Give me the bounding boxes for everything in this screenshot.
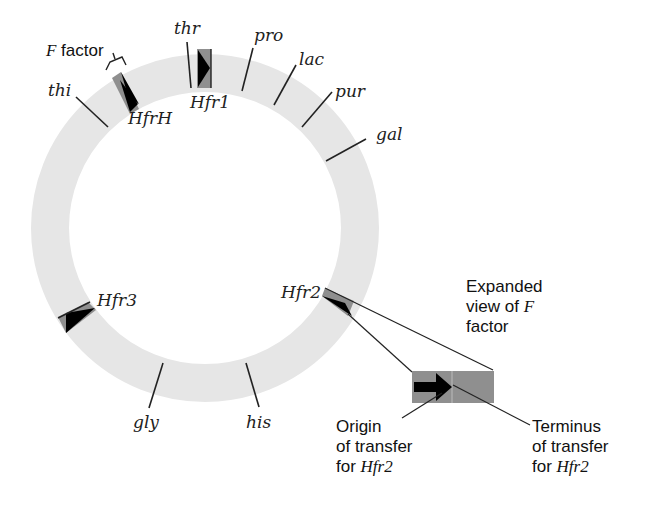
hfr-label-hfr3: Hfr3 bbox=[96, 290, 137, 310]
chromosome-ring bbox=[50, 73, 360, 383]
gene-label-thr: thr bbox=[174, 18, 201, 38]
hfr1-insert bbox=[197, 49, 211, 88]
hfr-label-hfr2: Hfr2 bbox=[280, 282, 321, 302]
f-factor-label: F factor bbox=[45, 41, 104, 60]
gene-label-pro: pro bbox=[254, 25, 283, 45]
terminus-of-transfer-label: Terminus of transfer for Hfr2 bbox=[532, 417, 613, 476]
gene-label-his: his bbox=[246, 412, 271, 432]
gene-label-gal: gal bbox=[376, 124, 402, 144]
expanded-f-factor-box bbox=[402, 371, 530, 425]
gene-label-lac: lac bbox=[299, 49, 325, 69]
expanded-view-label: Expanded view of F factor bbox=[466, 277, 547, 336]
gene-label-thi: thi bbox=[48, 80, 71, 100]
gene-label-gly: gly bbox=[133, 412, 159, 432]
origin-of-transfer-label: Origin of transfer for Hfr2 bbox=[336, 417, 417, 476]
hfr-label-hfr1: Hfr1 bbox=[189, 92, 230, 112]
hfr-label-hfrh: HfrH bbox=[127, 108, 173, 128]
f-factor-bracket bbox=[106, 57, 126, 70]
chromosome-diagram: thr pro lac pur gal his gly thi HfrH Hfr… bbox=[0, 0, 655, 515]
gene-label-pur: pur bbox=[335, 81, 366, 101]
